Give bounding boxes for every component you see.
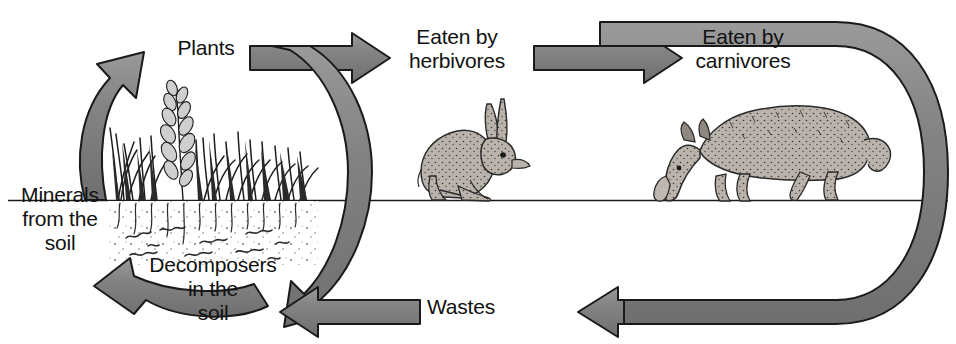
arrow-carnivore-to-wastes xyxy=(578,287,624,337)
label-minerals-from-the-soil: Minerals from the soil xyxy=(2,183,118,255)
grass-plants-illustration xyxy=(110,79,318,200)
label-plants: Plants xyxy=(160,36,252,60)
tall-seed-head xyxy=(157,79,198,200)
diagram-canvas: Plants Eaten by herbivores Eaten by carn… xyxy=(0,0,956,344)
rabbit-illustration xyxy=(418,99,530,201)
label-decomposers-in-the-soil: Decomposers in the soil xyxy=(133,253,293,325)
label-wastes: Wastes xyxy=(420,295,502,319)
wolf-illustration xyxy=(654,106,891,201)
label-eaten-by-carnivores: Eaten by carnivores xyxy=(676,25,810,73)
label-eaten-by-herbivores: Eaten by herbivores xyxy=(392,25,522,73)
